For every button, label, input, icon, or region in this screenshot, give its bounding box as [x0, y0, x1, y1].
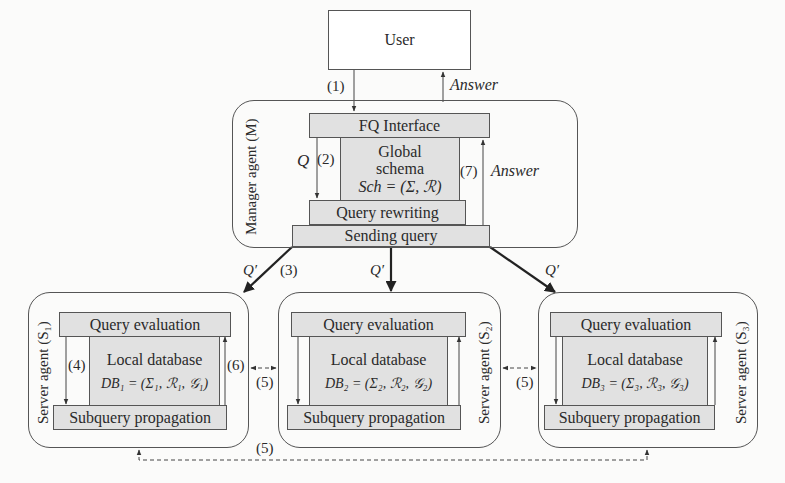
global-schema-formula: Sch = (Σ, ℛ): [358, 178, 441, 196]
step-5-s1-s2-label: (5): [256, 374, 274, 391]
s1-local-database: Local database DB₁ = (Σ₁, ℛ₁, 𝒢₁): [89, 337, 220, 405]
query-rewriting-label: Query rewriting: [336, 204, 439, 222]
step-1-label: (1): [327, 78, 345, 95]
s1-subquery-label: Subquery propagation: [69, 409, 211, 427]
s1-query-evaluation: Query evaluation: [59, 312, 231, 337]
s2-subquery-label: Subquery propagation: [303, 409, 445, 427]
global-schema-line2: schema: [376, 160, 424, 178]
step-7-label: (7): [460, 163, 478, 180]
user-box: User: [328, 10, 471, 70]
s2-db-formula: DB₂ = (Σ₂, ℛ₂, 𝒢₂): [325, 376, 432, 391]
query-rewriting-box: Query rewriting: [309, 200, 466, 225]
answer-top-label: Answer: [450, 76, 498, 94]
s3-subquery-label: Subquery propagation: [559, 409, 701, 427]
sending-query-label: Sending query: [345, 227, 438, 245]
s3-query-evaluation: Query evaluation: [550, 312, 722, 337]
s1-subquery-propagation: Subquery propagation: [53, 405, 227, 430]
server-s2-title: Server agent (S₂): [474, 305, 494, 440]
s2-local-db-label: Local database: [331, 351, 427, 369]
server-s3-title: Server agent (S₃): [731, 305, 751, 440]
global-schema-box: Global schema Sch = (Σ, ℛ): [340, 138, 460, 200]
server-s1-title: Server agent (S₁): [33, 305, 53, 440]
q-prime-s2-label: Q′: [370, 262, 384, 279]
s2-subquery-propagation: Subquery propagation: [287, 405, 461, 430]
s3-local-db-label: Local database: [587, 351, 683, 369]
s2-query-evaluation: Query evaluation: [291, 312, 466, 337]
sending-query-box: Sending query: [292, 225, 490, 247]
s3-db-formula: DB₃ = (Σ₃, ℛ₃, 𝒢₃): [581, 376, 688, 391]
step-6-label: (6): [227, 357, 245, 374]
global-schema-line1: Global: [378, 143, 422, 161]
fq-interface-label: FQ Interface: [359, 117, 440, 135]
fq-interface-box: FQ Interface: [309, 113, 490, 138]
step-4-label: (4): [68, 357, 86, 374]
step-3-label: (3): [280, 262, 298, 279]
answer-manager-label: Answer: [491, 162, 539, 180]
step-2-label: (2): [317, 151, 335, 168]
s1-db-formula: DB₁ = (Σ₁, ℛ₁, 𝒢₁): [101, 376, 208, 391]
s3-query-evaluation-label: Query evaluation: [581, 316, 692, 334]
q-label: Q: [297, 151, 309, 171]
s3-local-database: Local database DB₃ = (Σ₃, ℛ₃, 𝒢₃): [562, 337, 708, 405]
s2-query-evaluation-label: Query evaluation: [323, 316, 434, 334]
s1-query-evaluation-label: Query evaluation: [90, 316, 201, 334]
user-label: User: [384, 31, 414, 49]
q-prime-s1-label: Q′: [243, 262, 257, 279]
manager-agent-title: Manager agent (M): [240, 112, 262, 242]
s1-local-db-label: Local database: [107, 351, 203, 369]
q-prime-s3-label: Q′: [545, 262, 559, 279]
s3-subquery-propagation: Subquery propagation: [544, 405, 715, 430]
s2-local-database: Local database DB₂ = (Σ₂, ℛ₂, 𝒢₂): [309, 337, 448, 405]
step-5-s2-s3-label: (5): [516, 374, 534, 391]
step-5-s1-s3-label: (5): [256, 440, 274, 457]
